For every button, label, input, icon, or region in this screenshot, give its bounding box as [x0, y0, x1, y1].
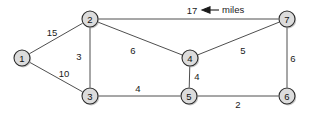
- edge-weight-1-3: 10: [59, 68, 70, 79]
- edges-layer: [29, 19, 287, 96]
- edge-weight-5-6: 2: [235, 99, 240, 110]
- graph-diagram: 1510361744526 miles 1234567: [0, 0, 311, 114]
- edge-2-4: [98, 22, 182, 55]
- node-label-4: 4: [187, 53, 192, 64]
- node-4[interactable]: 4: [182, 50, 199, 67]
- node-6[interactable]: 6: [279, 88, 296, 105]
- node-3[interactable]: 3: [82, 88, 99, 105]
- graph-canvas: 1510361744526 miles 1234567: [0, 0, 311, 114]
- left-arrow-icon: [202, 7, 210, 13]
- node-label-3: 3: [87, 91, 92, 102]
- node-1[interactable]: 1: [14, 50, 31, 67]
- edge-weight-4-5: 4: [194, 71, 199, 82]
- edge-weight-2-3: 3: [76, 51, 81, 62]
- units-label: miles: [222, 4, 244, 15]
- node-label-6: 6: [284, 91, 289, 102]
- node-label-7: 7: [284, 14, 289, 25]
- edge-1-3: [29, 62, 82, 92]
- edge-weight-2-4: 6: [130, 45, 135, 56]
- edge-weight-3-5: 4: [135, 83, 140, 94]
- edge-4-5: [189, 66, 190, 87]
- edge-weight-4-7: 5: [240, 45, 245, 56]
- node-7[interactable]: 7: [279, 11, 296, 28]
- edge-4-7: [198, 22, 279, 55]
- edge-weight-2-7: 17: [187, 5, 198, 16]
- node-5[interactable]: 5: [181, 88, 198, 105]
- node-label-1: 1: [19, 53, 24, 64]
- node-label-5: 5: [186, 91, 191, 102]
- node-label-2: 2: [87, 14, 92, 25]
- edge-weight-6-7: 6: [290, 53, 295, 64]
- nodes-layer: 1234567: [14, 11, 296, 105]
- edge-weight-1-2: 15: [47, 27, 58, 38]
- node-2[interactable]: 2: [82, 11, 99, 28]
- units-annotation: miles: [202, 4, 244, 15]
